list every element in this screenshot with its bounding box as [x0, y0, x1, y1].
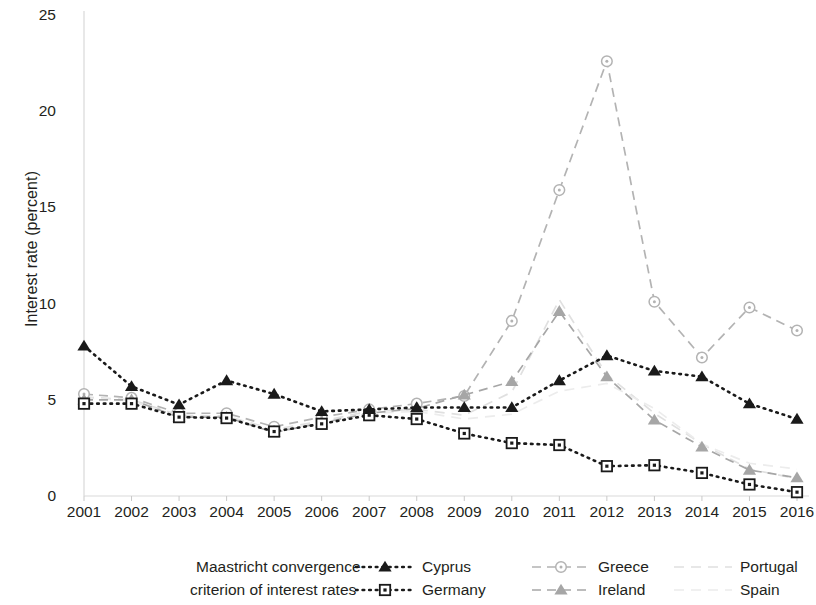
- data-point-marker-center: [415, 417, 418, 420]
- legend-title-text-2: criterion of interest rates: [190, 581, 356, 599]
- data-point-marker-center: [653, 464, 656, 467]
- data-point-marker: [600, 371, 613, 382]
- legend-key-germany-icon: [354, 580, 416, 600]
- x-tick-2013: 2013: [637, 503, 671, 521]
- data-point-marker-center: [368, 414, 371, 417]
- legend-item-greece[interactable]: Greece: [524, 556, 649, 578]
- legend-label-ireland: Ireland: [598, 581, 645, 599]
- y-tick-5: 5: [16, 391, 56, 409]
- data-point-marker-center: [510, 441, 513, 444]
- x-tick-2007: 2007: [352, 503, 386, 521]
- x-tick-2008: 2008: [399, 503, 433, 521]
- data-point-marker: [220, 374, 233, 385]
- data-point-marker-center: [605, 465, 608, 468]
- data-point-marker-center: [796, 329, 799, 332]
- series-line: [84, 61, 797, 427]
- data-point-marker: [695, 371, 708, 382]
- y-axis-tick-labels: 0510152025: [0, 0, 56, 605]
- y-tick-25: 25: [16, 6, 56, 24]
- y-tick-10: 10: [16, 295, 56, 313]
- data-point-marker-center: [273, 430, 276, 433]
- x-tick-2003: 2003: [162, 503, 196, 521]
- legend-label-portugal: Portugal: [740, 558, 798, 576]
- data-point-marker-center: [560, 566, 563, 569]
- data-point-marker: [505, 375, 518, 386]
- data-point-marker: [505, 401, 518, 412]
- data-point-marker-center: [748, 483, 751, 486]
- data-point-marker: [77, 340, 90, 351]
- data-point-marker-center: [383, 588, 386, 591]
- y-tick-15: 15: [16, 198, 56, 216]
- legend-label-cyprus: Cyprus: [422, 558, 471, 576]
- x-tick-2009: 2009: [447, 503, 481, 521]
- data-point-marker: [790, 472, 803, 483]
- x-tick-2002: 2002: [114, 503, 148, 521]
- series-line: [84, 346, 797, 419]
- legend-item-spain[interactable]: Spain: [666, 579, 780, 601]
- data-point-marker-center: [558, 443, 561, 446]
- legend-title-text-1: Maastricht convergence: [196, 558, 361, 576]
- data-point-marker-center: [558, 189, 561, 192]
- legend-key-ireland-icon: [530, 580, 592, 600]
- series-line: [84, 311, 797, 477]
- data-point-marker: [553, 374, 566, 385]
- data-point-marker-center: [225, 416, 228, 419]
- x-tick-2010: 2010: [495, 503, 529, 521]
- data-point-marker: [743, 397, 756, 408]
- legend-item-cyprus[interactable]: Cyprus: [348, 556, 471, 578]
- legend-title-line1: Maastricht convergence: [196, 556, 361, 578]
- x-tick-2016: 2016: [780, 503, 814, 521]
- data-point-marker-center: [605, 60, 608, 63]
- x-tick-2014: 2014: [685, 503, 719, 521]
- legend-item-germany[interactable]: Germany: [348, 579, 486, 601]
- x-tick-2006: 2006: [304, 503, 338, 521]
- x-tick-2005: 2005: [257, 503, 291, 521]
- legend-item-portugal[interactable]: Portugal: [666, 556, 798, 578]
- series-line: [84, 300, 797, 479]
- legend-label-germany: Germany: [422, 581, 486, 599]
- y-tick-20: 20: [16, 102, 56, 120]
- legend-label-spain: Spain: [740, 581, 780, 599]
- data-point-marker: [125, 380, 138, 391]
- series-portugal: [84, 300, 797, 479]
- chart-figure: Interest rate (percent) 0510152025 20012…: [0, 0, 816, 605]
- data-point-marker: [172, 398, 185, 409]
- x-tick-2001: 2001: [67, 503, 101, 521]
- data-point-marker-center: [177, 416, 180, 419]
- x-tick-2012: 2012: [590, 503, 624, 521]
- data-point-marker-center: [748, 306, 751, 309]
- legend-key-cyprus-icon: [354, 557, 416, 577]
- x-tick-2011: 2011: [543, 503, 576, 521]
- y-tick-0: 0: [16, 487, 56, 505]
- legend-key-portugal-icon: [672, 557, 734, 577]
- data-point-marker-center: [700, 356, 703, 359]
- legend-label-greece: Greece: [598, 558, 649, 576]
- data-point-marker-center: [510, 319, 513, 322]
- data-point-marker-center: [130, 402, 133, 405]
- data-point-marker-center: [82, 402, 85, 405]
- data-point-marker: [600, 349, 613, 360]
- x-tick-2004: 2004: [209, 503, 243, 521]
- data-point-marker: [648, 365, 661, 376]
- series-ireland: [77, 305, 803, 482]
- x-tick-2015: 2015: [732, 503, 766, 521]
- legend-key-greece-icon: [530, 557, 592, 577]
- data-point-marker-center: [320, 422, 323, 425]
- chart-legend: Maastricht convergence criterion of inte…: [0, 552, 816, 605]
- series-cyprus: [77, 340, 803, 424]
- data-point-marker-center: [653, 300, 656, 303]
- data-point-marker-center: [795, 491, 798, 494]
- data-point-marker-center: [463, 432, 466, 435]
- data-point-marker: [790, 413, 803, 424]
- legend-item-ireland[interactable]: Ireland: [524, 579, 645, 601]
- legend-key-spain-icon: [672, 580, 734, 600]
- data-point-marker-center: [700, 471, 703, 474]
- legend-title-line2: criterion of interest rates: [190, 579, 356, 601]
